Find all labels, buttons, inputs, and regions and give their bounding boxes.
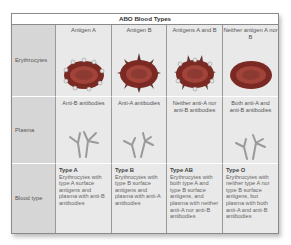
type-description: Erythrocytes with type B surface antigen… <box>115 174 160 206</box>
table-title: ABO Blood Types <box>12 14 278 25</box>
blood-type-ab-cell: Type AB Erythrocytes with both type A an… <box>167 164 223 233</box>
antibody-icon <box>233 133 269 161</box>
blood-type-o-cell: Type O Erythrocytes with neither type A … <box>223 164 278 233</box>
column-antigen-a: Antigen A <box>56 25 112 97</box>
type-description: Erythrocytes with both type A and type B… <box>170 174 218 220</box>
column-header: Neither antigen A nor B <box>223 27 278 40</box>
plasma-cell-anti-a: Anti-A antibodies <box>112 97 167 164</box>
plasma-text: Anti-B antibodies <box>56 100 111 107</box>
column-header: Antigen A <box>56 27 111 34</box>
erythrocyte-no-antigen-icon <box>228 59 274 91</box>
type-description: Erythrocytes with type A surface antigen… <box>59 174 105 206</box>
plasma-text: Both anti-A and anti-B antibodies <box>223 100 278 113</box>
row-label-blood-type: Blood type <box>12 164 56 233</box>
erythrocyte-antigens-a-b-icon <box>172 52 218 93</box>
erythrocyte-antigen-a-icon <box>61 53 107 93</box>
type-name: Type B <box>115 167 164 174</box>
blood-type-b-cell: Type B Erythrocytes with type B surface … <box>112 164 167 233</box>
type-name: Type O <box>226 167 276 174</box>
antibody-icon <box>121 129 157 159</box>
abo-blood-types-table: ABO Blood Types Erythrocytes Antigen A A… <box>11 13 279 234</box>
column-antigens-a-and-b: Antigens A and B <box>167 25 223 97</box>
column-antigen-b: Antigen B <box>112 25 167 97</box>
erythrocyte-antigen-b-icon <box>116 51 162 93</box>
antibody-icon <box>66 129 102 159</box>
type-name: Type A <box>59 167 109 174</box>
plasma-cell-both: Both anti-A and anti-B antibodies <box>223 97 278 164</box>
column-header: Antigens A and B <box>167 27 222 34</box>
row-label-plasma: Plasma <box>12 97 56 164</box>
type-description: Erythrocytes with neither type A nor typ… <box>226 174 270 220</box>
blood-type-a-cell: Type A Erythrocytes with type A surface … <box>56 164 112 233</box>
column-header: Antigen B <box>112 27 166 34</box>
plasma-text: Anti-A antibodies <box>112 100 166 107</box>
plasma-text: Neither anti-A nor anti-B antibodies <box>167 100 222 113</box>
row-label-erythrocytes: Erythrocytes <box>12 25 56 97</box>
type-name: Type AB <box>170 167 220 174</box>
plasma-cell-neither: Neither anti-A nor anti-B antibodies <box>167 97 223 164</box>
plasma-cell-anti-b: Anti-B antibodies <box>56 97 112 164</box>
column-neither-antigen: Neither antigen A nor B <box>223 25 278 97</box>
